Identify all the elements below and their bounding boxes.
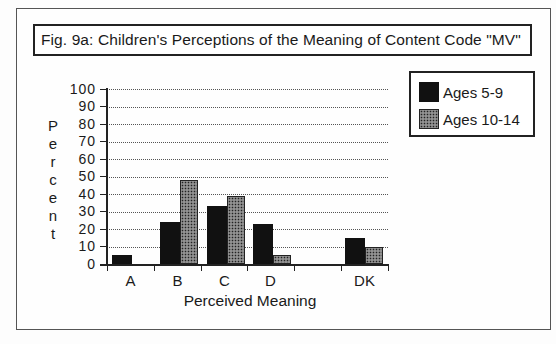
- x-tick: [201, 264, 202, 271]
- chart-title-text: Fig. 9a: Children's Perceptions of the M…: [41, 31, 521, 49]
- gridline: [107, 107, 388, 108]
- legend-swatch-stipple: [419, 109, 439, 129]
- bar-dk-ages-5-9: [345, 238, 365, 264]
- x-tick-label-dk: DK: [341, 272, 388, 289]
- y-tick-label: 20: [58, 222, 96, 236]
- y-tick-label: 30: [58, 204, 96, 218]
- x-tick: [107, 264, 108, 271]
- x-tick-label-a: A: [107, 272, 154, 289]
- bar-c-ages-10-14: [227, 196, 245, 264]
- legend-label: Ages 10-14: [443, 111, 520, 128]
- y-tick-label: 90: [58, 99, 96, 113]
- gridline: [107, 229, 388, 230]
- bar-dk-ages-10-14: [365, 247, 383, 265]
- x-axis-line: [100, 264, 389, 266]
- bar-d-ages-5-9: [253, 224, 273, 264]
- y-tick-label: 0: [58, 257, 96, 271]
- legend: Ages 5-9 Ages 10-14: [409, 71, 535, 137]
- legend-item-ages-5-9: Ages 5-9: [419, 82, 503, 102]
- chart-title: Fig. 9a: Children's Perceptions of the M…: [33, 24, 532, 56]
- gridline: [107, 212, 388, 213]
- x-tick-label-d: D: [247, 272, 294, 289]
- legend-item-ages-10-14: Ages 10-14: [419, 109, 520, 129]
- y-tick-label: 100: [58, 82, 96, 96]
- bar-b-ages-10-14: [180, 180, 198, 264]
- gridline: [107, 142, 388, 143]
- x-tick: [154, 264, 155, 271]
- gridline: [107, 124, 388, 125]
- gridline: [107, 177, 388, 178]
- gridline: [107, 159, 388, 160]
- legend-label: Ages 5-9: [443, 84, 503, 101]
- y-tick-label: 40: [58, 187, 96, 201]
- y-tick-label: 60: [58, 152, 96, 166]
- x-axis-title: Perceived Meaning: [170, 292, 330, 310]
- y-axis-line: [106, 88, 108, 266]
- y-tick-label: 70: [58, 134, 96, 148]
- y-tick-label: 80: [58, 117, 96, 131]
- gridline: [107, 194, 388, 195]
- bar-d-ages-10-14: [273, 255, 291, 264]
- x-tick: [247, 264, 248, 271]
- bar-c-ages-5-9: [207, 206, 227, 264]
- gridline: [107, 89, 388, 90]
- bar-b-ages-5-9: [160, 222, 180, 264]
- plot-area: [107, 89, 388, 264]
- x-tick-label-c: C: [201, 272, 248, 289]
- y-tick-label: 10: [58, 239, 96, 253]
- y-tick-label: 50: [58, 169, 96, 183]
- bar-a-ages-5-9: [112, 255, 132, 264]
- x-tick: [388, 264, 389, 271]
- x-tick: [341, 264, 342, 271]
- x-tick: [294, 264, 295, 271]
- x-tick-label-b: B: [154, 272, 201, 289]
- legend-swatch-solid: [419, 82, 439, 102]
